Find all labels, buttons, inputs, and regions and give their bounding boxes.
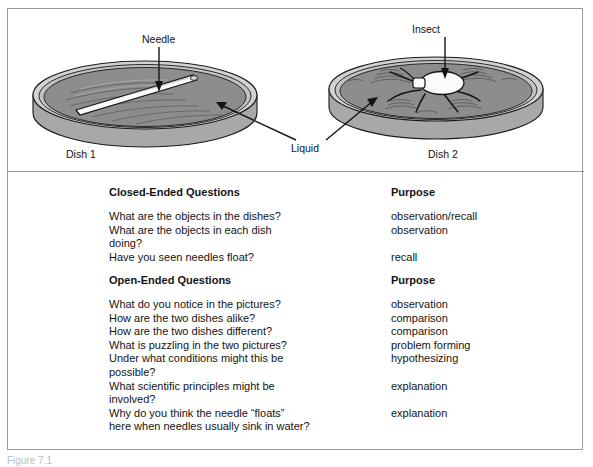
table-row: involved? (8, 393, 584, 407)
dish-2-label: Dish 2 (428, 148, 458, 160)
purpose-text: hypothesizing (391, 352, 571, 366)
petri-dish-illustration: Needle Insect Liquid Dish 1 Dish 2 (8, 9, 584, 171)
table-row: possible? (8, 366, 584, 380)
question-text: involved? (109, 393, 384, 407)
table-row: Have you seen needles float? recall (8, 251, 584, 265)
table-row: Why do you think the needle “floats” exp… (8, 407, 584, 421)
question-text: Under what conditions might this be (109, 352, 384, 366)
table-row: Under what conditions might this be hypo… (8, 352, 584, 366)
question-text: Why do you think the needle “floats” (109, 407, 384, 421)
question-text: What are the objects in each dish (109, 224, 384, 238)
table-row: How are the two dishes alike? comparison (8, 312, 584, 326)
question-text: What do you notice in the pictures? (109, 298, 384, 312)
dish-1-label: Dish 1 (66, 148, 96, 160)
purpose-text: observation (391, 224, 571, 238)
figure-frame: Needle Insect Liquid Dish 1 Dish 2 Close… (7, 8, 583, 450)
table-row: What are the objects in the dishes? obse… (8, 210, 584, 224)
question-text: Have you seen needles float? (109, 251, 384, 265)
question-text: How are the two dishes alike? (109, 312, 384, 326)
table-row: How are the two dishes different? compar… (8, 325, 584, 339)
question-text: How are the two dishes different? (109, 325, 384, 339)
question-text: possible? (109, 366, 384, 380)
purpose-text: comparison (391, 325, 571, 339)
figure-caption: Figure 7.1 (7, 455, 567, 467)
closed-ended-section: Closed-Ended Questions Purpose What are … (8, 186, 584, 264)
dish-2-graphic (326, 37, 543, 140)
question-text: What is puzzling in the two pictures? (109, 339, 384, 353)
open-ended-heading: Open-Ended Questions (109, 274, 384, 288)
purpose-text: problem forming (391, 339, 571, 353)
purpose-text: recall (391, 251, 571, 265)
table-row: here when needles usually sink in water? (8, 420, 584, 434)
question-text: doing? (109, 237, 384, 251)
liquid-label: Liquid (291, 142, 319, 154)
table-header-row: Closed-Ended Questions Purpose (8, 186, 584, 208)
purpose-text: observation/recall (391, 210, 571, 224)
purpose-text: explanation (391, 407, 571, 421)
open-ended-section: Open-Ended Questions Purpose What do you… (8, 274, 584, 434)
needle-label: Needle (142, 33, 175, 45)
table-row: What are the objects in each dish observ… (8, 224, 584, 238)
purpose-heading-open: Purpose (391, 274, 571, 288)
question-text: What are the objects in the dishes? (109, 210, 384, 224)
question-text: What scientific principles might be (109, 380, 384, 394)
question-text: here when needles usually sink in water? (109, 420, 384, 434)
purpose-heading-closed: Purpose (391, 186, 571, 200)
purpose-text: explanation (391, 380, 571, 394)
purpose-text: observation (391, 298, 571, 312)
questions-purpose-table: Closed-Ended Questions Purpose What are … (8, 172, 584, 450)
table-row: What is puzzling in the two pictures? pr… (8, 339, 584, 353)
table-row: What scientific principles might be expl… (8, 380, 584, 394)
table-header-row: Open-Ended Questions Purpose (8, 274, 584, 296)
insect-label: Insect (412, 23, 440, 35)
closed-ended-heading: Closed-Ended Questions (109, 186, 384, 200)
table-row: doing? (8, 237, 584, 251)
purpose-text: comparison (391, 312, 571, 326)
dish-1-graphic (33, 47, 296, 147)
table-row: What do you notice in the pictures? obse… (8, 298, 584, 312)
